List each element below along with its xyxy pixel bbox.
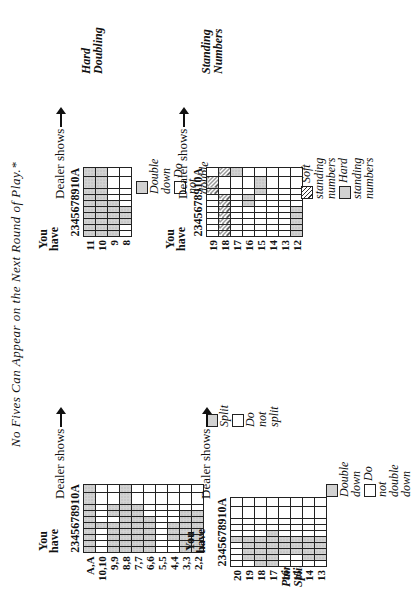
grid-cell: [96, 213, 108, 219]
dealer-col-header: 7: [215, 531, 231, 537]
grid-cell: [120, 484, 132, 493]
grid-cell: [303, 549, 315, 555]
row-header: 10: [96, 237, 108, 252]
grid-cell: [231, 168, 243, 177]
table-row: 8: [120, 168, 132, 251]
row-header: 20: [231, 567, 243, 582]
grid-cell: [132, 484, 144, 493]
grid-cell: [219, 219, 231, 225]
grid-cell: [243, 531, 255, 537]
grid-cell: [144, 511, 156, 517]
grid-cell: [120, 201, 132, 207]
table-row: 13: [315, 498, 327, 581]
grid-cell: [243, 507, 255, 519]
grid-cell: [84, 195, 96, 201]
grid-cell: [231, 201, 243, 207]
dealer-col-header: 2: [68, 231, 84, 237]
grid-cell: [279, 519, 291, 525]
table-row: 16: [243, 168, 255, 251]
grid-cell: [243, 207, 255, 213]
dealer-shows-label: Dealer shows: [52, 109, 68, 199]
grid-cell: [168, 517, 180, 523]
dealer-col-header: 5: [215, 543, 231, 549]
grid-cell: [219, 168, 231, 177]
grid-cell: [120, 225, 132, 231]
standing-numbers-title: Standing Numbers: [200, 4, 224, 74]
grid-cell: [279, 507, 291, 519]
grid-cell: [279, 543, 291, 549]
grid-cell: [132, 523, 144, 529]
grid-cell: [255, 213, 267, 219]
grid-cell: [156, 505, 168, 511]
grid-cell: [315, 537, 327, 543]
grid-cell: [108, 541, 120, 547]
grid-cell: [120, 168, 132, 177]
grid-cell: [255, 498, 267, 507]
pair-legend: Split Do not split: [205, 405, 280, 427]
grid-cell: [108, 505, 120, 511]
grid-cell: [243, 498, 255, 507]
grid-cell: [279, 561, 291, 567]
grid-cell: [84, 547, 96, 553]
grid-cell: [243, 543, 255, 549]
grid-cell: [120, 541, 132, 547]
grid-cell: [243, 519, 255, 525]
grid-cell: [243, 168, 255, 177]
grid-cell: [144, 529, 156, 535]
grid-cell: [315, 507, 327, 519]
grid-cell: [291, 531, 303, 537]
dealer-shows-label: Dealer shows: [175, 109, 191, 199]
grid-cell: [84, 177, 96, 189]
grid-cell: [219, 213, 231, 219]
grid-cell: [156, 484, 168, 493]
table-row: 10: [96, 168, 108, 251]
grid-cell: [279, 177, 291, 189]
grid-cell: [120, 529, 132, 535]
grid-cell: [108, 511, 120, 517]
grid-cell: [279, 213, 291, 219]
grid-cell: [255, 531, 267, 537]
dealer-col-header: 3: [191, 225, 207, 231]
grid-cell: [168, 493, 180, 505]
dealer-col-header: A: [215, 498, 231, 507]
table-row: 13: [279, 168, 291, 251]
dealer-col-header: 4: [215, 549, 231, 555]
dealer-col-header: 2: [68, 547, 84, 553]
dealer-col-header: 8: [215, 525, 231, 531]
grid-cell: [108, 201, 120, 207]
grid-cell: [279, 168, 291, 177]
grid-cell: [207, 168, 219, 177]
grid-cell: [156, 535, 168, 541]
grid-cell: [96, 207, 108, 213]
dealer-col-header: 9: [68, 189, 84, 195]
grid-cell: [279, 219, 291, 225]
grid-cell: [231, 531, 243, 537]
grid-cell: [231, 231, 243, 237]
grid-cell: [96, 535, 108, 541]
grid-cell: [279, 225, 291, 231]
grid-cell: [291, 219, 303, 225]
row-header: 8,8: [120, 553, 132, 581]
grid-cell: [267, 519, 279, 525]
grid-cell: [144, 505, 156, 511]
grid-cell: [156, 517, 168, 523]
grid-cell: [96, 517, 108, 523]
grid-cell: [120, 207, 132, 213]
row-header: 18: [255, 567, 267, 582]
grid-cell: [219, 207, 231, 213]
dealer-col-header: 10: [68, 493, 84, 505]
row-header: 8: [120, 237, 132, 252]
grid-cell: [231, 195, 243, 201]
grid-cell: [315, 525, 327, 531]
soft-doubling-grid: 2345678910A2019181716151413: [215, 497, 327, 581]
grid-cell: [303, 531, 315, 537]
grid-cell: [243, 549, 255, 555]
row-header: 10,10: [96, 553, 108, 581]
standing-numbers-grid: 2345678910A1918171615141312: [191, 167, 303, 251]
grid-cell: [156, 511, 168, 517]
grid-cell: [84, 231, 96, 237]
grid-cell: [96, 225, 108, 231]
grid-cell: [231, 549, 243, 555]
dealer-col-header: 6: [215, 537, 231, 543]
dealer-col-header: 7: [68, 517, 84, 523]
